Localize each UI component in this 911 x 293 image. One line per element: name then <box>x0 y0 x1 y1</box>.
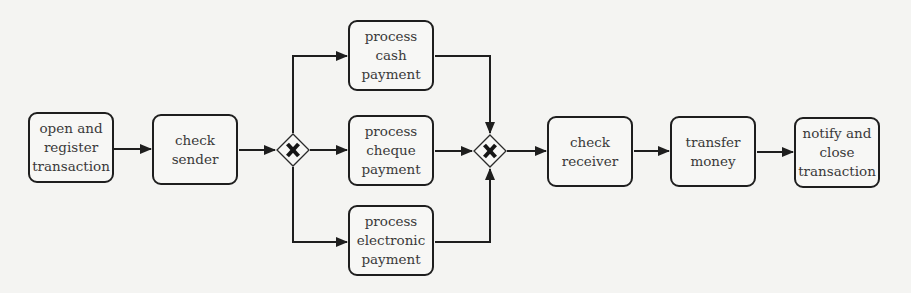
flow-split-to-electronic <box>293 167 347 242</box>
flow-cash-to-join-gateway <box>435 56 490 133</box>
task-open-and-register-transaction: open and register transaction <box>28 112 114 183</box>
task-transfer-money: transfer money <box>670 116 756 187</box>
exclusive-join-gateway <box>473 134 507 168</box>
flow-split-to-cash <box>293 56 347 133</box>
task-notify-and-close-transaction: notify and close transaction <box>794 117 880 188</box>
exclusive-split-gateway <box>276 133 310 167</box>
process-diagram: open and register transaction check send… <box>0 0 911 293</box>
task-check-sender: check sender <box>152 114 238 185</box>
sequence-flows <box>0 0 911 293</box>
task-process-cash-payment: process cash payment <box>348 20 434 91</box>
task-check-receiver: check receiver <box>547 116 633 187</box>
flow-electronic-to-join-gateway <box>435 169 490 242</box>
task-process-cheque-payment: process cheque payment <box>348 115 434 186</box>
task-process-electronic-payment: process electronic payment <box>348 205 434 276</box>
